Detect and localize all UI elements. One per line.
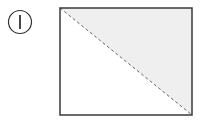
- rectangle-diagram: [0, 0, 203, 138]
